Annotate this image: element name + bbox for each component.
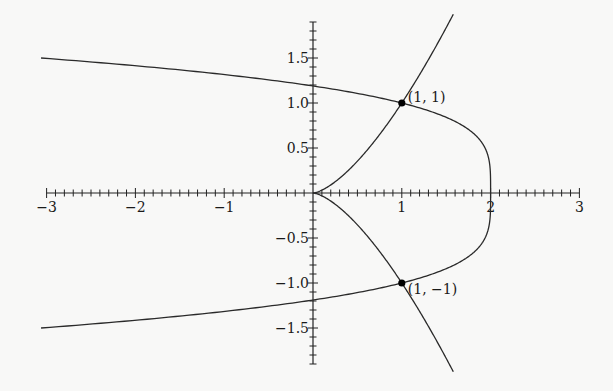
chart: −3−2−11231.51.00.5−0.5−1.0−1.5 (1, 1)(1,… — [0, 0, 613, 391]
y-tick-label: −1.5 — [275, 320, 309, 336]
x-tick-label: −3 — [36, 199, 57, 215]
x-tick-label: 1 — [397, 199, 406, 215]
x-tick-label: 3 — [575, 199, 584, 215]
point-label: (1, −1) — [408, 281, 457, 297]
y-tick-label: −1.0 — [275, 275, 309, 291]
x-tick-label: −2 — [125, 199, 146, 215]
x-tick-label: −1 — [214, 199, 235, 215]
intersection-point — [398, 279, 405, 286]
y-tick-label: 1.0 — [287, 95, 309, 111]
point-label: (1, 1) — [408, 89, 446, 105]
intersection-point — [398, 99, 405, 106]
y-tick-label: −0.5 — [275, 230, 309, 246]
y-tick-label: 0.5 — [287, 140, 309, 156]
y-tick-label: 1.5 — [287, 50, 309, 66]
